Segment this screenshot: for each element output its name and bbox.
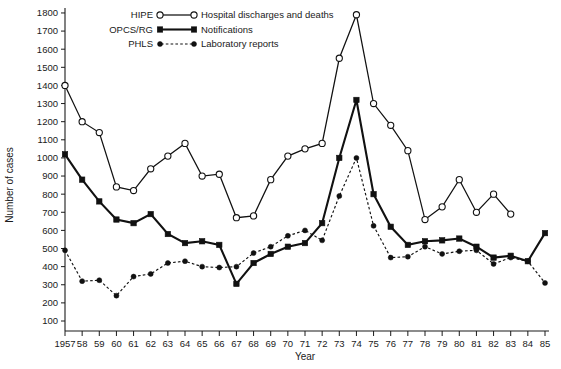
y-tick-label: 400 <box>42 261 58 272</box>
legend-source-label: OPCS/RG <box>109 24 153 35</box>
data-point-filled-dot <box>251 251 256 256</box>
data-point-open-circle <box>250 213 256 219</box>
line-chart: 1002003004005006007008009001000110012001… <box>0 0 561 369</box>
x-axis-title: Year <box>295 351 316 362</box>
data-point-open-circle <box>165 153 171 159</box>
data-point-filled-dot <box>371 223 376 228</box>
x-tick-label: 68 <box>248 338 259 349</box>
y-tick-label: 500 <box>42 243 58 254</box>
data-point-filled-square <box>234 281 239 286</box>
y-tick-label: 1300 <box>37 98 58 109</box>
data-point-filled-square <box>97 199 102 204</box>
data-point-open-circle <box>439 204 445 210</box>
data-point-filled-dot <box>183 259 188 264</box>
y-axis: 1002003004005006007008009001000110012001… <box>37 7 65 331</box>
y-tick-label: 1500 <box>37 62 58 73</box>
data-point-filled-dot <box>148 271 153 276</box>
x-tick-label: 59 <box>94 338 105 349</box>
data-point-filled-dot <box>131 274 136 279</box>
data-point-open-circle <box>62 82 68 88</box>
data-point-filled-square <box>114 217 119 222</box>
data-point-filled-square <box>79 177 84 182</box>
x-tick-label: 82 <box>488 338 499 349</box>
x-tick-label: 84 <box>523 338 534 349</box>
legend-item-hipe: HIPEHospital discharges and deaths <box>131 9 334 20</box>
data-point-filled-square <box>199 239 204 244</box>
x-tick-label: 74 <box>351 338 362 349</box>
data-point-open-circle <box>148 166 154 172</box>
y-tick-label: 1100 <box>38 134 58 145</box>
data-point-open-circle <box>473 209 479 215</box>
data-point-open-circle <box>216 171 222 177</box>
data-point-filled-square <box>542 230 547 235</box>
data-point-filled-dot <box>405 254 410 259</box>
data-point-filled-dot <box>285 233 290 238</box>
y-tick-label: 1800 <box>37 7 58 18</box>
y-tick-label: 1200 <box>37 116 58 127</box>
data-point-filled-dot <box>63 248 68 253</box>
data-point-filled-dot <box>457 249 462 254</box>
series-phls <box>63 155 548 298</box>
data-point-open-circle <box>353 12 359 18</box>
y-tick-label: 100 <box>42 315 58 326</box>
chart-legend: HIPEHospital discharges and deathsOPCS/R… <box>109 9 334 49</box>
legend-source-label: PHLS <box>128 38 153 49</box>
data-point-filled-square <box>319 220 324 225</box>
data-point-filled-dot <box>114 293 119 298</box>
x-tick-label: 78 <box>420 338 431 349</box>
legend-source-label: HIPE <box>131 9 153 20</box>
data-point-filled-dot <box>474 248 479 253</box>
legend-item-opcs-rg: OPCS/RGNotifications <box>109 24 253 35</box>
data-point-filled-square <box>62 152 67 157</box>
legend-series-label: Laboratory reports <box>201 38 279 49</box>
data-point-filled-dot <box>192 42 197 47</box>
data-point-filled-square <box>388 224 393 229</box>
data-point-open-circle <box>302 146 308 152</box>
series-container <box>62 12 548 298</box>
x-tick-label: 64 <box>180 338 191 349</box>
data-point-filled-square <box>302 240 307 245</box>
x-tick-label: 1957 <box>54 338 75 349</box>
data-point-filled-dot <box>543 280 548 285</box>
data-point-filled-dot <box>234 264 239 269</box>
x-tick-label: 71 <box>300 338 311 349</box>
data-point-open-circle <box>370 100 376 106</box>
data-point-filled-dot <box>354 155 359 160</box>
y-tick-label: 1700 <box>37 25 58 36</box>
y-axis-title: Number of cases <box>4 147 15 223</box>
y-tick-label: 1000 <box>37 152 58 163</box>
x-tick-label: 61 <box>128 338 139 349</box>
y-tick-label: 900 <box>42 170 58 181</box>
data-point-filled-dot <box>200 264 205 269</box>
y-tick-label: 1400 <box>37 80 58 91</box>
x-tick-label: 81 <box>471 338 482 349</box>
x-tick-label: 76 <box>385 338 396 349</box>
data-point-open-circle <box>233 215 239 221</box>
data-point-filled-dot <box>80 279 85 284</box>
data-point-filled-square <box>439 238 444 243</box>
x-tick-label: 58 <box>77 338 88 349</box>
x-tick-label: 77 <box>403 338 414 349</box>
data-point-filled-square <box>165 231 170 236</box>
chart-figure: 1002003004005006007008009001000110012001… <box>0 0 561 369</box>
data-point-filled-square <box>148 211 153 216</box>
legend-series-label: Notifications <box>201 24 253 35</box>
x-tick-label: 79 <box>437 338 448 349</box>
data-point-open-circle <box>336 55 342 61</box>
legend-series-label: Hospital discharges and deaths <box>201 9 334 20</box>
data-point-filled-square <box>285 244 290 249</box>
data-point-filled-square <box>457 236 462 241</box>
y-tick-label: 800 <box>42 189 58 200</box>
x-tick-label: 80 <box>454 338 465 349</box>
data-point-filled-dot <box>217 265 222 270</box>
data-point-filled-square <box>217 242 222 247</box>
series-line <box>65 158 545 296</box>
data-point-filled-dot <box>388 255 393 260</box>
y-tick-label: 1600 <box>37 44 58 55</box>
x-tick-label: 73 <box>334 338 345 349</box>
data-point-filled-dot <box>525 259 530 264</box>
series-line <box>65 100 545 284</box>
data-point-filled-dot <box>337 193 342 198</box>
legend-item-phls: PHLSLaboratory reports <box>128 38 279 49</box>
data-point-filled-square <box>405 242 410 247</box>
